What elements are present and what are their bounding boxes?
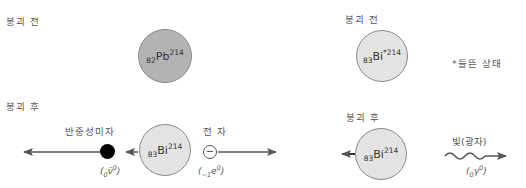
bi-214-nucleus-right: 83Bi214	[355, 128, 407, 180]
antineutrino-label: 반중성미자	[65, 124, 115, 138]
bi-214-excited-symbol: 83Bi*214	[363, 48, 401, 65]
bi-214-symbol: 83Bi214	[148, 142, 182, 159]
electron-particle: −	[203, 145, 217, 159]
right-after-label: 붕괴 후	[346, 110, 380, 124]
left-after-label: 붕괴 후	[6, 99, 40, 113]
electron-formula: (−1e0)	[198, 164, 224, 179]
photon-formula: (0γ0)	[466, 164, 487, 179]
excited-state-note: *들뜬 상태	[452, 56, 502, 70]
antineutrino-particle	[100, 144, 115, 159]
right-before-label: 붕괴 전	[345, 12, 379, 26]
arrows-layer	[0, 0, 526, 188]
photon-wave-icon	[445, 153, 485, 159]
pb-214-nucleus: 82Pb214	[138, 29, 192, 83]
pb-214-symbol: 82Pb214	[146, 48, 184, 65]
antineutrino-formula: (0ν̄0)	[100, 164, 120, 179]
bi-214-excited-nucleus: 83Bi*214	[356, 30, 408, 82]
photon-label: 빛(광자)	[452, 134, 486, 148]
electron-label: 전 자	[203, 124, 227, 138]
bi-214-nucleus-left: 83Bi214	[139, 124, 191, 176]
bi-214-symbol-right: 83Bi214	[364, 146, 398, 163]
left-before-label: 붕괴 전	[6, 14, 40, 28]
